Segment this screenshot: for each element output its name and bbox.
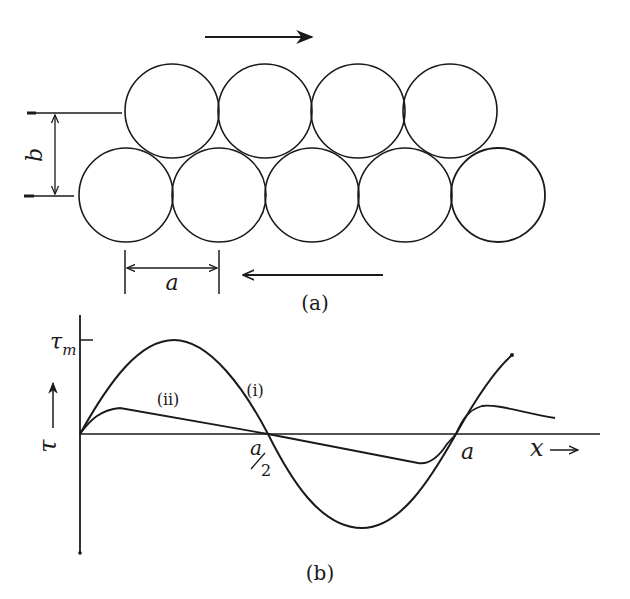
panel-a: b a (a) — [22, 37, 545, 315]
atom-circle — [311, 64, 405, 158]
tick-half-a: a 2 — [250, 436, 271, 480]
svg-text:2: 2 — [261, 461, 271, 480]
atom-circle — [403, 64, 497, 158]
bottom-row-atoms — [79, 148, 545, 242]
atom-circle — [218, 64, 312, 158]
panel-b-caption: (b) — [306, 561, 334, 585]
dimension-b-label: b — [22, 148, 47, 162]
atom-circle — [79, 148, 173, 242]
top-row-atoms — [125, 64, 497, 158]
panel-a-caption: (a) — [301, 291, 329, 315]
tick-a-label: a — [461, 439, 474, 464]
tau-m-label: τm — [50, 329, 76, 359]
dimension-a-label: a — [165, 270, 178, 295]
svg-text:a: a — [250, 436, 262, 460]
atom-circle — [172, 148, 266, 242]
dimension-a: a — [125, 250, 219, 295]
panel-b: τm τ (i) (ii) a 2 a x (b) — [34, 315, 600, 585]
curve-ii-label: (ii) — [157, 390, 180, 409]
atom-circle — [125, 64, 219, 158]
atom-circle — [265, 148, 359, 242]
figure-canvas: b a (a) τm τ (i) (ii) — [0, 0, 630, 599]
curve-i-label: (i) — [246, 381, 264, 400]
y-axis-label: τ — [34, 439, 62, 453]
dimension-b: b — [22, 113, 122, 196]
x-axis-label: x — [530, 434, 544, 462]
atom-circle — [451, 148, 545, 242]
atom-circle — [358, 148, 452, 242]
